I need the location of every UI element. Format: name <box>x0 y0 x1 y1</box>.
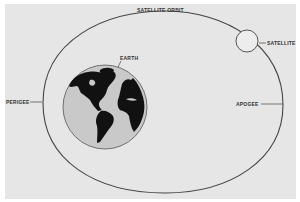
orbit-label: SATELLITE ORBIT <box>137 7 184 13</box>
perigee-label: PERIGEE <box>6 99 30 105</box>
earth-label: EARTH <box>120 55 138 61</box>
earth-leader-line <box>118 61 121 67</box>
earth-globe <box>63 65 147 149</box>
apogee-label: APOGEE <box>236 101 259 107</box>
satellite-circle <box>236 30 258 52</box>
satellite-label: SATELLITE <box>267 40 296 46</box>
